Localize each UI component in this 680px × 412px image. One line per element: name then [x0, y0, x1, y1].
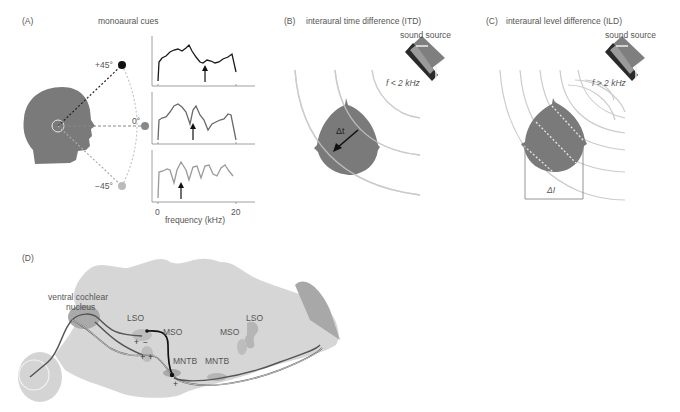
panel-c-title: interaural level difference (ILD) [506, 16, 622, 26]
vcn-label-line1: ventral cochlear [48, 292, 108, 302]
mso-plus-sign-1: + [140, 352, 145, 362]
source-dot-plus45 [118, 61, 126, 69]
x-axis-label: frequency (kHz) [165, 215, 225, 225]
delta-i-label: ΔI [547, 185, 555, 195]
head-top-view-icon-c [521, 98, 587, 172]
delta-t-label: Δt [336, 126, 345, 136]
panel-a-title: monoaural cues [98, 16, 158, 26]
speaker-icon [405, 36, 445, 81]
panel-d-tag: (D) [22, 253, 34, 263]
x-tick-0: 0 [155, 207, 160, 217]
lso-minus-sign: − [143, 337, 148, 347]
panel-b-source-label: sound source [400, 30, 451, 40]
mso-plus-sign-2: + [148, 352, 153, 362]
angle-label-0: 0° [132, 116, 140, 126]
mntb-plus-sign: + [173, 379, 178, 389]
vcn-label-line2: nucleus [66, 302, 95, 312]
speaker-icon-c [605, 36, 645, 81]
spectrum-trace-0 [158, 104, 236, 140]
panel-c-source-label: sound source [605, 30, 656, 40]
x-tick-20: 20 [231, 207, 240, 217]
angle-label-plus45: +45° [95, 60, 113, 70]
panel-c-graphic [500, 36, 645, 200]
panel-a-tag: (A) [22, 16, 33, 26]
mso-left-label: MSO [163, 327, 182, 337]
lso-right-label: LSO [246, 313, 263, 323]
panel-c-tag: (C) [486, 16, 498, 26]
panel-b-graphic [295, 36, 445, 195]
spectrum-trace-plus45 [158, 45, 236, 81]
mntb-left-label: MNTB [173, 356, 197, 366]
lso-left-label: LSO [127, 313, 144, 323]
mso-right-label: MSO [220, 327, 239, 337]
panel-c-freq-label: f > 2 kHz [592, 78, 626, 88]
mntb-right-label: MNTB [205, 356, 229, 366]
brainstem-shape [55, 259, 339, 398]
source-dot-0 [141, 122, 149, 130]
panel-b-title: interaural time difference (ITD) [306, 16, 421, 26]
lso-plus-sign: + [134, 337, 139, 347]
panel-b-tag: (B) [284, 16, 295, 26]
head-top-view-icon [314, 98, 380, 175]
spectrum-trace-minus45 [158, 162, 233, 198]
source-dot-minus45 [118, 182, 126, 190]
panel-b-freq-label: f < 2 kHz [386, 78, 420, 88]
angle-label-minus45: −45° [95, 181, 113, 191]
